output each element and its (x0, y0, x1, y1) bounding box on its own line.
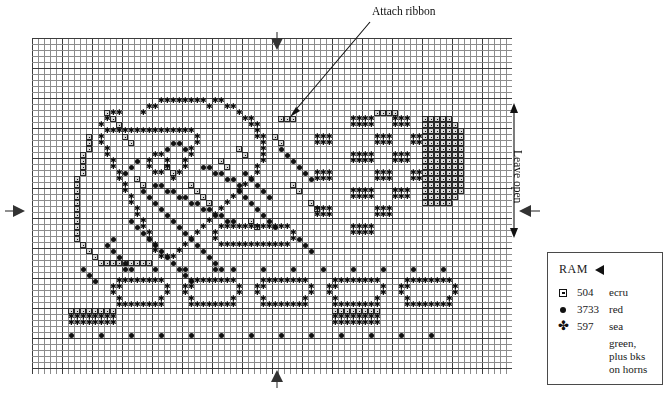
stitch-cell-ecru (458, 176, 464, 182)
stitch-cell-ecru (458, 170, 464, 176)
stitch-cell-green: ✱ (104, 128, 110, 134)
stitch-cell-green: ✱ (368, 230, 374, 236)
stitch-cell-green: ✱ (362, 278, 368, 284)
stitch-cell-ecru (308, 200, 314, 206)
cross-stitch-grid: ✱✱✱✱✱✱✱✱✱✱✱✱✱✱✱✱✱✱✱✱✱✱✱✱✱✱✱✱✱✱✱✱✱✱✱✱✱✱✱✱… (32, 38, 512, 374)
stitch-cell-red (111, 237, 116, 242)
stitch-cell-green: ✱ (404, 302, 410, 308)
stitch-cell-green: ✱ (350, 278, 356, 284)
stitch-cell-ecru (74, 308, 80, 314)
stitch-cell-green: ✱ (74, 320, 80, 326)
stitch-cell-green: ✱ (338, 302, 344, 308)
stitch-cell-green: ✱ (344, 320, 350, 326)
stitch-cell-green: ✱ (194, 302, 200, 308)
stitch-cell-ecru (422, 134, 428, 140)
stitch-cell-red (261, 267, 266, 272)
stitch-cell-ecru (224, 164, 230, 170)
stitch-cell-ecru (422, 200, 428, 206)
stitch-cell-ecru (434, 188, 440, 194)
stitch-cell-green: ✱ (218, 206, 224, 212)
stitch-cell-red (147, 195, 152, 200)
stitch-cell-red (183, 267, 188, 272)
stitch-cell-ecru (296, 188, 302, 194)
stitch-cell-ecru (440, 188, 446, 194)
stitch-cell-green: ✱ (218, 224, 224, 230)
stitch-cell-green: ✱ (176, 128, 182, 134)
stitch-cell-green: ✱ (230, 296, 236, 302)
stitch-cell-red (195, 243, 200, 248)
stitch-cell-green: ✱ (140, 110, 146, 116)
stitch-cell-green: ✱ (326, 140, 332, 146)
stitch-cell-green: ✱ (254, 134, 260, 140)
stitch-cell-red (177, 141, 182, 146)
stitch-cell-green: ✱ (374, 314, 380, 320)
stitch-cell-green: ✱ (440, 278, 446, 284)
stitch-cell-green: ✱ (272, 224, 278, 230)
stitch-cell-red (249, 333, 254, 338)
stitch-cell-green: ✱ (110, 128, 116, 134)
stitch-cell-red (129, 333, 134, 338)
stitch-cell-ecru (458, 158, 464, 164)
stitch-cell-green: ✱ (164, 128, 170, 134)
stitch-symbol-layer: ✱✱✱✱✱✱✱✱✱✱✱✱✱✱✱✱✱✱✱✱✱✱✱✱✱✱✱✱✱✱✱✱✱✱✱✱✱✱✱✱… (32, 38, 512, 374)
stitch-cell-green: ✱ (302, 302, 308, 308)
stitch-cell-green: ✱ (314, 140, 320, 146)
stitch-cell-green: ✱ (212, 278, 218, 284)
stitch-cell-green: ✱ (98, 134, 104, 140)
stitch-cell-green: ✱ (380, 170, 386, 176)
stitch-cell-green: ✱ (224, 224, 230, 230)
stitch-cell-red (279, 333, 284, 338)
stitch-cell-green: ✱ (350, 158, 356, 164)
stitch-cell-red (213, 267, 218, 272)
stitch-cell-green: ✱ (326, 284, 332, 290)
stitch-cell-green: ✱ (128, 200, 134, 206)
stitch-cell-ecru (440, 140, 446, 146)
stitch-cell-ecru (374, 308, 380, 314)
stitch-cell-green: ✱ (332, 302, 338, 308)
stitch-cell-green: ✱ (230, 242, 236, 248)
stitch-cell-green: ✱ (368, 314, 374, 320)
stitch-cell-green: ✱ (374, 206, 380, 212)
stitch-cell-ecru (446, 176, 452, 182)
stitch-cell-green: ✱ (164, 254, 170, 260)
stitch-cell-ecru (452, 182, 458, 188)
stitch-cell-green: ✱ (350, 230, 356, 236)
stitch-cell-ecru (74, 176, 80, 182)
stitch-cell-ecru (458, 182, 464, 188)
stitch-cell-green: ✱ (218, 278, 224, 284)
stitch-cell-green: ✱ (356, 116, 362, 122)
stitch-cell-red (171, 219, 176, 224)
stitch-cell-ecru (98, 308, 104, 314)
stitch-cell-red (231, 177, 236, 182)
stitch-cell-ecru (422, 116, 428, 122)
stitch-cell-green: ✱ (368, 278, 374, 284)
stitch-cell-red (189, 333, 194, 338)
stitch-cell-green: ✱ (356, 194, 362, 200)
stitch-cell-green: ✱ (350, 320, 356, 326)
stitch-cell-red (141, 189, 146, 194)
stitch-cell-ecru (122, 134, 128, 140)
stitch-cell-green: ✱ (194, 134, 200, 140)
stitch-cell-ecru (458, 134, 464, 140)
stitch-cell-green: ✱ (140, 218, 146, 224)
stitch-cell-green: ✱ (182, 242, 188, 248)
stitch-cell-green: ✱ (416, 278, 422, 284)
stitch-cell-red (183, 147, 188, 152)
pattern-page: ✱✱✱✱✱✱✱✱✱✱✱✱✱✱✱✱✱✱✱✱✱✱✱✱✱✱✱✱✱✱✱✱✱✱✱✱✱✱✱✱… (0, 0, 667, 420)
stitch-cell-ecru (428, 182, 434, 188)
legend-code-red: 3733 (577, 303, 609, 316)
stitch-cell-green: ✱ (386, 140, 392, 146)
stitch-cell-ecru (284, 116, 290, 122)
stitch-cell-ecru (350, 308, 356, 314)
stitch-cell-ecru (98, 260, 104, 266)
stitch-cell-green: ✱ (182, 158, 188, 164)
stitch-cell-green: ✱ (344, 314, 350, 320)
stitch-cell-green: ✱ (236, 224, 242, 230)
stitch-cell-ecru (170, 170, 176, 176)
stitch-cell-ecru (452, 170, 458, 176)
stitch-cell-green: ✱ (170, 98, 176, 104)
stitch-cell-red (117, 255, 122, 260)
stitch-cell-ecru (110, 308, 116, 314)
stitch-cell-green: ✱ (86, 320, 92, 326)
stitch-cell-green: ✱ (398, 116, 404, 122)
